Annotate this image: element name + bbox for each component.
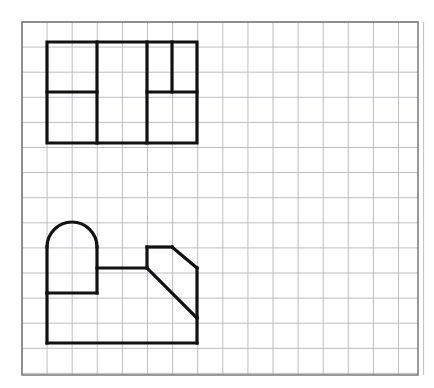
drawing-page	[0, 0, 434, 388]
technical-drawing-canvas	[0, 0, 434, 388]
canvas-background	[0, 0, 434, 388]
